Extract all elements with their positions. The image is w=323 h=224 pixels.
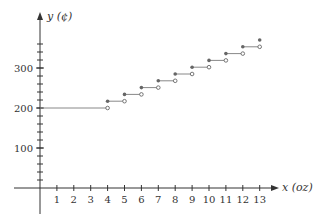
y-tick-label: 300 bbox=[14, 63, 33, 74]
x-tick-label: 5 bbox=[121, 194, 127, 205]
y-tick-label: 200 bbox=[14, 103, 33, 114]
open-point bbox=[258, 45, 262, 49]
closed-point bbox=[157, 79, 161, 83]
open-point bbox=[173, 79, 177, 83]
x-tick-label: 12 bbox=[236, 194, 249, 205]
closed-point bbox=[258, 38, 262, 42]
open-point bbox=[207, 65, 211, 69]
y-tick-label: 100 bbox=[14, 143, 33, 154]
open-point bbox=[190, 72, 194, 76]
closed-point bbox=[207, 59, 211, 63]
x-axis-arrow-icon bbox=[271, 185, 279, 191]
x-tick-label: 6 bbox=[138, 194, 144, 205]
x-tick-label: 3 bbox=[88, 194, 94, 205]
open-point bbox=[241, 52, 245, 56]
open-point bbox=[224, 59, 228, 63]
closed-point bbox=[190, 65, 194, 69]
closed-point bbox=[224, 52, 228, 56]
closed-point bbox=[140, 86, 144, 90]
axes bbox=[14, 12, 279, 214]
open-point bbox=[157, 86, 161, 90]
x-tick-label: 8 bbox=[172, 194, 178, 205]
y-axis-arrow-icon bbox=[37, 12, 43, 20]
x-tick-label: 1 bbox=[54, 194, 60, 205]
closed-point bbox=[173, 72, 177, 76]
x-tick-label: 7 bbox=[155, 194, 161, 205]
closed-point bbox=[123, 93, 127, 97]
y-axis-label: y (¢) bbox=[46, 10, 72, 23]
closed-point bbox=[241, 45, 245, 49]
closed-point bbox=[106, 99, 110, 103]
open-point bbox=[140, 93, 144, 97]
x-tick-label: 9 bbox=[189, 194, 195, 205]
x-tick-label: 2 bbox=[71, 194, 77, 205]
x-tick-label: 13 bbox=[253, 194, 266, 205]
open-point bbox=[123, 99, 127, 103]
x-tick-label: 11 bbox=[220, 194, 233, 205]
x-axis-label: x (oz) bbox=[282, 181, 313, 194]
step-series bbox=[40, 38, 262, 110]
x-tick-label: 10 bbox=[203, 194, 216, 205]
x-tick-label: 4 bbox=[104, 194, 110, 205]
y-axis-ticks: 100200300 bbox=[14, 44, 44, 180]
open-point bbox=[106, 106, 110, 110]
step-function-chart: 100200300 12345678910111213 y (¢) x (oz) bbox=[0, 0, 323, 224]
